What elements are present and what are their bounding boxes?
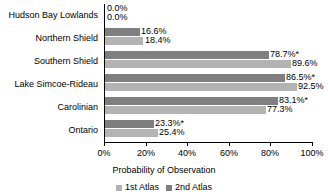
plot-area: 0.0% 0.0% 16.6% 18.4% 78.7%* 89.6% 86.5%… <box>104 4 312 142</box>
value-label-first-atlas-hudson-bay-lowlands: 0.0% <box>107 13 128 22</box>
x-axis-title: Probability of Observation <box>0 165 328 176</box>
x-axis-tick-100 <box>312 142 313 146</box>
legend-swatch-icon-1st-atlas <box>116 185 122 191</box>
y-axis-label-southern-shield: Southern Shield <box>0 56 98 66</box>
legend-swatch-icon-2nd-atlas <box>166 185 172 191</box>
x-axis-tick-label-80: 80% <box>250 148 290 158</box>
y-axis-label-carolinian: Carolinian <box>0 102 98 112</box>
bar-second-atlas-ontario <box>105 120 154 128</box>
legend-label-2nd-atlas: 2nd Atlas <box>175 182 212 193</box>
bar-first-atlas-northern-shield <box>105 37 143 45</box>
bar-first-atlas-lake-simcoe-rideau <box>105 83 297 91</box>
y-axis-label-ontario: Ontario <box>0 125 98 135</box>
bar-second-atlas-southern-shield <box>105 51 269 59</box>
bar-chart: Hudson Bay Lowlands Northern Shield Sout… <box>0 0 328 196</box>
x-axis-tick-label-40: 40% <box>167 148 207 158</box>
value-label-first-atlas-lake-simcoe-rideau: 92.5% <box>298 82 324 91</box>
x-axis-line <box>104 142 313 143</box>
x-axis-tick-label-60: 60% <box>209 148 249 158</box>
legend-label-1st-atlas: 1st Atlas <box>125 182 159 193</box>
x-axis-tick-0 <box>104 142 105 146</box>
x-axis-tick-label-20: 20% <box>126 148 166 158</box>
y-axis-label-northern-shield: Northern Shield <box>0 33 98 43</box>
bar-second-atlas-carolinian <box>105 97 278 105</box>
legend-item-1st-atlas: 1st Atlas <box>116 182 159 193</box>
bar-first-atlas-ontario <box>105 129 158 137</box>
y-axis-label-hudson-bay-lowlands: Hudson Bay Lowlands <box>0 10 98 20</box>
y-axis-labels: Hudson Bay Lowlands Northern Shield Sout… <box>0 4 101 142</box>
x-axis-tick-80 <box>270 142 271 146</box>
x-axis-tick-label-100: 100% <box>292 148 328 158</box>
x-axis-tick-20 <box>146 142 147 146</box>
legend-item-2nd-atlas: 2nd Atlas <box>166 182 212 193</box>
bar-first-atlas-carolinian <box>105 106 266 114</box>
value-label-first-atlas-northern-shield: 18.4% <box>145 36 171 45</box>
bar-first-atlas-southern-shield <box>105 60 291 68</box>
value-label-first-atlas-ontario: 25.4% <box>159 128 185 137</box>
x-axis-tick-60 <box>229 142 230 146</box>
value-label-first-atlas-carolinian: 77.3% <box>267 105 293 114</box>
x-axis-tick-label-0: 0% <box>84 148 124 158</box>
y-axis-label-lake-simcoe-rideau: Lake Simcoe-Rideau <box>0 79 98 89</box>
bar-second-atlas-northern-shield <box>105 28 140 36</box>
x-axis-tick-40 <box>187 142 188 146</box>
value-label-first-atlas-southern-shield: 89.6% <box>292 59 318 68</box>
chart-legend: 1st Atlas 2nd Atlas <box>0 182 328 193</box>
bar-second-atlas-lake-simcoe-rideau <box>105 74 285 82</box>
